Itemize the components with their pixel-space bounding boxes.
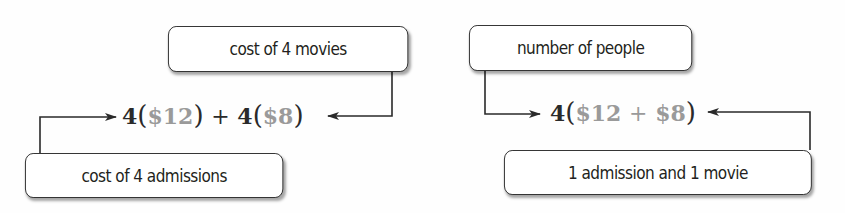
coefficient: 4 xyxy=(122,103,137,129)
arrow-movies-to-expression xyxy=(328,72,392,116)
coefficient: 4 xyxy=(237,103,252,129)
paren-open: ( xyxy=(253,100,263,130)
paren-open: ( xyxy=(137,100,147,130)
label-text: number of people xyxy=(517,38,644,58)
label-text: cost of 4 admissions xyxy=(81,166,226,186)
expression-expanded: 4($12) + 4($8) xyxy=(122,102,304,128)
paren-close: ) xyxy=(686,97,696,127)
coefficient: 4 xyxy=(550,100,565,126)
expression-factored: 4($12 + $8) xyxy=(550,99,696,125)
admission-price: $12 xyxy=(147,103,193,129)
arrow-admission-movie-to-expression xyxy=(708,112,810,150)
label-cost-of-4-movies: cost of 4 movies xyxy=(168,26,408,72)
label-cost-of-4-admissions: cost of 4 admissions xyxy=(25,153,283,198)
label-admission-and-movie: 1 admission and 1 movie xyxy=(504,150,812,195)
paren-close: ) xyxy=(293,100,303,130)
plus-sign: + xyxy=(629,101,647,126)
paren-close: ) xyxy=(193,100,203,130)
label-text: 1 admission and 1 movie xyxy=(568,163,748,183)
admission-price: $12 xyxy=(575,100,621,126)
arrow-people-to-expression xyxy=(485,71,540,114)
arrow-admissions-to-expression xyxy=(40,117,116,153)
paren-open: ( xyxy=(565,97,575,127)
movie-price: $8 xyxy=(263,103,294,129)
plus-sign: + xyxy=(211,104,229,129)
movie-price: $8 xyxy=(655,100,686,126)
distributive-property-diagram: cost of 4 movies cost of 4 admissions 4(… xyxy=(0,0,845,213)
label-text: cost of 4 movies xyxy=(230,39,347,59)
label-number-of-people: number of people xyxy=(469,25,692,71)
